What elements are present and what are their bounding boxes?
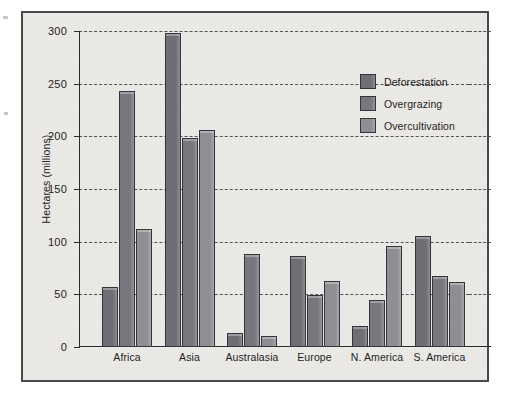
y-axis-tick-mark (74, 136, 80, 137)
x-axis-tick-label: Asia (179, 351, 200, 363)
x-axis-tick-label: Australasia (225, 351, 278, 363)
bar[interactable] (369, 300, 385, 347)
bar-highlight (318, 296, 322, 346)
bar-highlight (147, 230, 151, 346)
bar-group-asia (165, 31, 215, 347)
x-axis-tick-labels: AfricaAsiaAustralasiaEuropeN. AmericaS. … (79, 351, 469, 371)
bar-top-edge (291, 257, 305, 259)
x-axis-tick-label: S. America (414, 351, 466, 363)
bar-highlight (176, 34, 180, 346)
bar-group-australasia (227, 31, 277, 347)
gridline-extension (469, 294, 491, 295)
legend-item[interactable]: Deforestation (360, 71, 490, 92)
legend-label: Deforestation (384, 76, 448, 88)
bar-top-edge (450, 283, 464, 285)
x-axis-tick-label: N. America (351, 351, 403, 363)
bar[interactable] (165, 33, 181, 347)
bar-highlight (380, 301, 384, 346)
bar-highlight (335, 282, 339, 346)
bar[interactable] (227, 333, 243, 347)
figure-frame: Hectares (millions) 050100150200250300 A… (21, 11, 489, 382)
bar[interactable] (199, 130, 215, 347)
y-axis-tick-label: 300 (33, 25, 67, 37)
gridline-extension (469, 31, 491, 32)
y-axis-tick-label: 250 (33, 78, 67, 90)
bar-highlight (130, 92, 134, 346)
y-axis-tick-mark (74, 31, 80, 32)
chart-legend: DeforestationOvergrazingOvercultivation (360, 71, 490, 137)
bar-highlight (426, 237, 430, 346)
bar[interactable] (182, 138, 198, 347)
y-axis-tick-mark (74, 189, 80, 190)
gridline-extension (469, 242, 491, 243)
bar-top-edge (120, 92, 134, 94)
bar-top-edge (137, 230, 151, 232)
bar-top-edge (308, 296, 322, 298)
bar-highlight (193, 139, 197, 346)
bar-group-europe (290, 31, 340, 347)
y-axis-tick-label: 200 (33, 130, 67, 142)
bar-highlight (301, 257, 305, 346)
bar-highlight (255, 255, 259, 346)
bar-top-edge (262, 337, 276, 339)
y-axis-tick-mark (74, 84, 80, 85)
legend-swatch (360, 74, 376, 89)
bar[interactable] (307, 295, 323, 347)
legend-swatch (360, 96, 376, 111)
bar[interactable] (119, 91, 135, 347)
bar[interactable] (261, 336, 277, 347)
legend-item[interactable]: Overcultivation (360, 115, 490, 136)
bar[interactable] (102, 287, 118, 347)
bar-top-edge (200, 131, 214, 133)
y-axis-tick-label: 50 (33, 288, 67, 300)
bar-top-edge (245, 255, 259, 257)
legend-label: Overcultivation (384, 120, 455, 132)
y-axis-tick-mark (74, 242, 80, 243)
bar[interactable] (415, 236, 431, 347)
bar-top-edge (103, 288, 117, 290)
bar-highlight (397, 247, 401, 346)
scan-artifact-speck (3, 16, 8, 19)
bar-highlight (113, 288, 117, 346)
legend-swatch-highlight (371, 97, 375, 110)
legend-swatch (360, 118, 376, 133)
y-axis-tick-mark (74, 347, 80, 348)
legend-label: Overgrazing (384, 98, 442, 110)
y-axis-tick-labels: 050100150200250300 (33, 13, 67, 380)
y-axis-tick-label: 150 (33, 183, 67, 195)
bar-highlight (210, 131, 214, 346)
bar-group-africa (102, 31, 152, 347)
bar[interactable] (324, 281, 340, 347)
bar-top-edge (166, 34, 180, 36)
bar-highlight (443, 277, 447, 346)
x-axis-tick-label: Europe (297, 351, 331, 363)
legend-swatch-highlight (371, 119, 375, 132)
bar[interactable] (136, 229, 152, 347)
bar[interactable] (449, 282, 465, 347)
gridline-extension (469, 189, 491, 190)
bar[interactable] (386, 246, 402, 347)
legend-swatch-highlight (371, 75, 375, 88)
bar-top-edge (183, 139, 197, 141)
bar-top-edge (228, 334, 242, 336)
y-axis-tick-mark (74, 294, 80, 295)
x-axis-tick-label: Africa (113, 351, 140, 363)
bar[interactable] (352, 326, 368, 347)
bar[interactable] (432, 276, 448, 347)
bar-top-edge (325, 282, 339, 284)
bar-top-edge (353, 327, 367, 329)
bar-top-edge (416, 237, 430, 239)
bar[interactable] (244, 254, 260, 347)
bar-highlight (363, 327, 367, 346)
bar[interactable] (290, 256, 306, 347)
legend-item[interactable]: Overgrazing (360, 93, 490, 114)
bar-top-edge (433, 277, 447, 279)
bar-top-edge (387, 247, 401, 249)
bar-top-edge (370, 301, 384, 303)
y-axis-tick-label: 100 (33, 236, 67, 248)
bar-highlight (460, 283, 464, 346)
scan-artifact-speck (4, 112, 8, 115)
y-axis-tick-label: 0 (33, 341, 67, 353)
